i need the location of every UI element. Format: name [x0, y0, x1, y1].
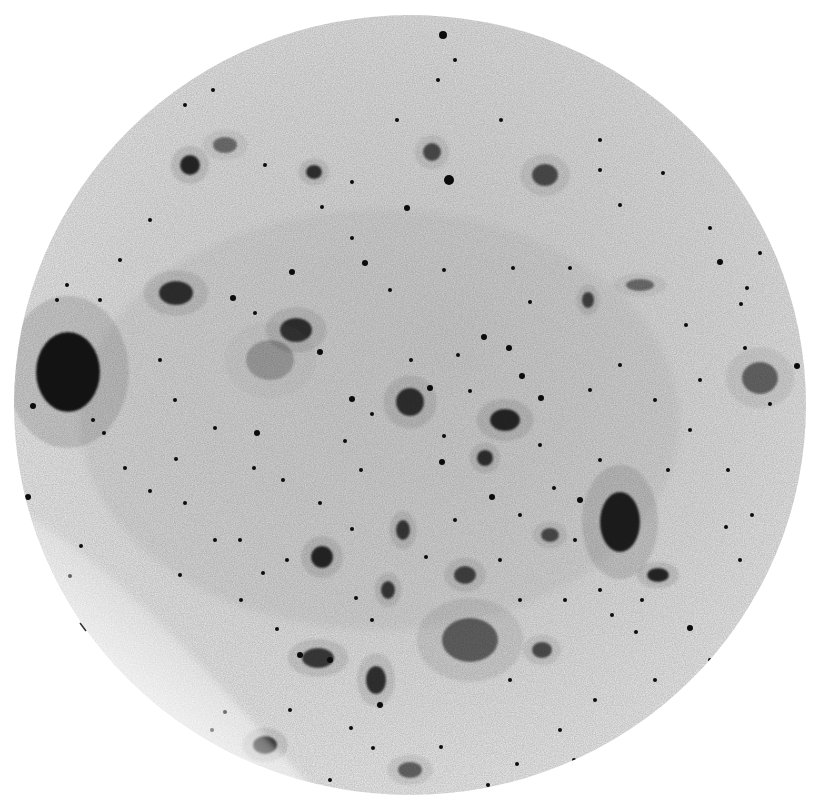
cropped-caption	[0, 798, 817, 807]
star-dot	[238, 778, 242, 782]
star-dot	[686, 738, 690, 742]
star-dot	[771, 234, 775, 238]
star-dot	[618, 758, 622, 762]
galaxy-photographic-plate	[0, 0, 817, 807]
star-dot	[688, 718, 692, 722]
plate-field	[0, 0, 817, 807]
star-dot	[758, 598, 762, 602]
